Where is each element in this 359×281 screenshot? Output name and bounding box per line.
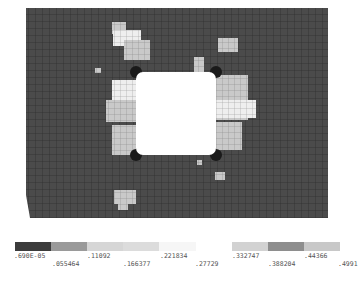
legend-label: .690E-05: [14, 253, 45, 260]
square-hole: [136, 72, 216, 155]
legend-segment: [304, 242, 340, 251]
legend-label: .055464: [52, 261, 79, 268]
legend-label: .4991: [338, 261, 358, 268]
legend-segment: [15, 242, 51, 251]
legend-segment: [123, 242, 159, 251]
legend-segment: [232, 242, 268, 251]
legend-segment: [87, 242, 123, 251]
legend-segment: [159, 242, 195, 251]
legend-label: .221834: [160, 253, 187, 260]
legend-segment: [196, 242, 232, 251]
legend-label: .388204: [268, 261, 295, 268]
legend-color-bar: [15, 242, 340, 251]
contour-plot: [0, 0, 359, 225]
legend-label: .11092: [87, 253, 110, 260]
legend-label: .27729: [195, 261, 218, 268]
legend-segment: [268, 242, 304, 251]
legend-segment: [51, 242, 87, 251]
legend-label: .166377: [123, 261, 150, 268]
legend-label: .44366: [304, 253, 327, 260]
legend-label: .332747: [232, 253, 259, 260]
